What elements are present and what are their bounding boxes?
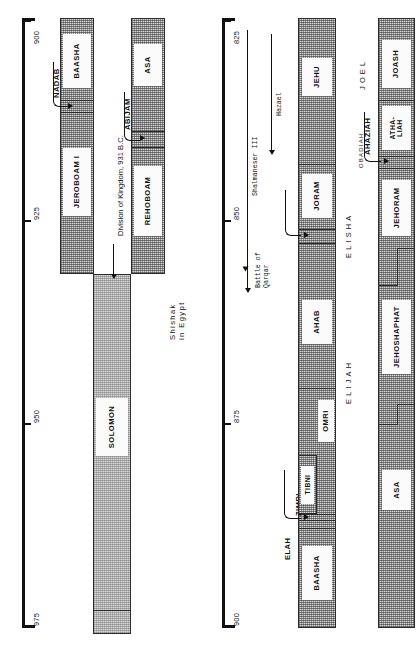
axis-tick-label-900: 900 <box>232 613 241 626</box>
panel-2-timeline: 900 875 850 825 Shalmaneser III Hazael B… <box>200 0 296 645</box>
ahaziah-israel-arrow <box>304 232 309 238</box>
reign-label-baasha-p3: BAASHA <box>302 546 332 600</box>
reign-label-jeroboam: JEROBOAM I <box>63 148 91 216</box>
callout-nadab: NADAB <box>52 68 61 98</box>
jehoshaphat-jehoram-step-h2 <box>397 248 415 249</box>
reign-label-baasha-p1: BAASHA <box>63 34 91 88</box>
axis-line <box>22 18 25 628</box>
abijam-start-divider <box>131 147 165 148</box>
callout-elah-label: ELAH <box>283 538 292 560</box>
reign-label-text: OMRI <box>322 410 330 432</box>
reign-label-joram: JORAM <box>302 174 332 218</box>
solomon-start-divider <box>93 610 131 611</box>
panel-3-kings-bars: BAASHA ELAH ZIMRI TIBNI OMRI AHAB JORAM … <box>296 0 416 645</box>
joram-end-divider <box>298 164 336 165</box>
elah-end-divider <box>298 520 336 521</box>
reign-label-rehoboam: REHOBOAM <box>134 166 162 236</box>
reign-label-jehoshaphat: JEHOSHAPHAT <box>382 300 411 374</box>
qarqar-leader-line <box>247 222 248 270</box>
axis-tick-label-950: 950 <box>32 410 41 423</box>
axis-line <box>222 18 225 628</box>
axis-tick <box>22 220 31 222</box>
reign-label-text: TIBNI <box>304 475 311 495</box>
asa-jehoshaphat-step-h2 <box>397 404 415 405</box>
reign-label-text: JOASH <box>393 50 401 78</box>
reign-label-text: JORAM <box>313 181 321 211</box>
reign-label-jehoram: JEHORAM <box>382 180 411 236</box>
hazael-arrow-head <box>269 150 275 155</box>
axis-tick-label-825: 825 <box>232 31 241 44</box>
division-leader-line <box>113 244 114 276</box>
reign-label-ahab: AHAB <box>302 300 332 344</box>
shalmaneser-arrow-head <box>245 288 251 293</box>
reign-label-solomon: SOLOMON <box>96 398 128 456</box>
omri-end-divider <box>298 388 336 389</box>
annotation-qarqar: Battle of Qarqar <box>255 252 271 288</box>
reign-label-tibni: TIBNI <box>301 466 314 504</box>
zimri-arrow <box>304 514 309 520</box>
panel-1-timeline: 975 950 925 900 SOLOMON JEROBOAM I NADAB… <box>0 0 200 645</box>
jehoram-end-divider <box>378 168 415 169</box>
axis-tick-label-875: 875 <box>232 410 241 423</box>
axis-tick <box>22 626 31 628</box>
ahaziah-israel-leader-line <box>285 190 301 236</box>
prophet-label-elisha: ELISHA <box>344 213 353 259</box>
axis-tick-label-850: 850 <box>232 207 241 220</box>
ahaziah-judah-arrow <box>384 158 389 164</box>
asa-jehoshaphat-step-h1 <box>378 424 398 425</box>
annotation-division-of-kingdom: Division of Kingdom, 931 B.C. <box>116 135 125 236</box>
reign-label-text: BAASHA <box>73 43 81 78</box>
reign-label-omri: OMRI <box>318 400 334 442</box>
reign-label-asa-p3: ASA <box>382 470 411 510</box>
asa-jehoshaphat-step-v <box>397 404 398 425</box>
abijam-arrow <box>140 135 145 141</box>
reign-label-text: BAASHA <box>313 555 321 590</box>
reign-label-text: ASA <box>144 56 152 73</box>
reign-label-jehu: JEHU <box>302 58 332 96</box>
annotation-hazael: Hazael <box>276 92 283 116</box>
axis-tick-label-975: 975 <box>32 613 41 626</box>
axis-tick <box>222 220 231 222</box>
annotation-shishak: Shishak in Egypt <box>168 301 187 340</box>
reign-label-athaliah: ATHA-LIAH <box>382 106 411 150</box>
nadab-arrow <box>68 103 73 109</box>
reign-label-text: ASA <box>393 481 401 498</box>
reign-label-text: JEHOSHAPHAT <box>393 306 401 368</box>
annotation-shalmaneser: Shalmaneser III <box>252 137 259 196</box>
athaliah-end-divider <box>378 100 415 101</box>
prophet-label-joel: JOEL <box>358 59 367 90</box>
reign-label-text: JEHU <box>313 66 321 88</box>
division-arrow-head <box>111 274 117 279</box>
jehoshaphat-jehoram-step-v <box>397 248 398 286</box>
baasha-end-divider <box>298 528 336 529</box>
jehoshaphat-jehoram-step-h1 <box>378 285 398 286</box>
ahab-end-divider <box>298 243 336 244</box>
axis-tick <box>22 423 31 425</box>
reign-label-text: JEROBOAM I <box>73 156 81 209</box>
reign-label-text: JEHORAM <box>393 187 401 228</box>
axis-tick <box>222 20 231 22</box>
nadab-start-divider <box>60 112 94 113</box>
axis-tick <box>222 423 231 425</box>
axis-tick-label-900: 900 <box>32 31 41 44</box>
axis-tick <box>222 626 231 628</box>
prophet-label-elijah: ELIJAH <box>344 360 353 404</box>
ahaziah-israel-end-divider <box>298 229 336 230</box>
hazael-span-line <box>271 34 272 152</box>
axis-tick <box>22 20 31 22</box>
reign-label-asa-p1: ASA <box>134 44 162 86</box>
callout-abijam: ABIJAM <box>123 98 132 130</box>
reign-label-text: SOLOMON <box>108 406 116 448</box>
axis-tick-label-925: 925 <box>32 207 41 220</box>
reign-label-text: ATHA-LIAH <box>389 114 403 143</box>
qarqar-arrow-head <box>243 267 249 272</box>
reign-label-joash: JOASH <box>382 40 411 88</box>
callout-ahaziah-judah: AHAZIAH <box>363 118 372 155</box>
reign-label-text: REHOBOAM <box>144 177 152 226</box>
reign-label-text: AHAB <box>313 310 321 334</box>
